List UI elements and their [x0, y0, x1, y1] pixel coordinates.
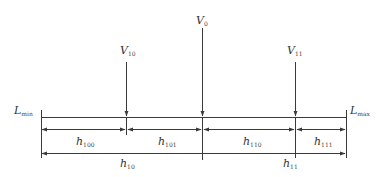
- v11-label: V11: [287, 44, 303, 57]
- split-diagram: V0 V10 V11 Lmin Lmax h100 h101 h110 h111…: [0, 0, 378, 177]
- h100-label: h100: [76, 135, 95, 148]
- h10-label: h10: [120, 157, 135, 170]
- lmin-label: Lmin: [13, 104, 33, 117]
- h101-label: h101: [158, 135, 177, 148]
- v10-label: V10: [120, 44, 136, 57]
- h11-label: h11: [283, 157, 298, 170]
- v0-label: V0: [196, 14, 208, 27]
- h110-label: h110: [243, 135, 262, 148]
- lmax-label: Lmax: [349, 104, 371, 117]
- h111-label: h111: [314, 135, 333, 148]
